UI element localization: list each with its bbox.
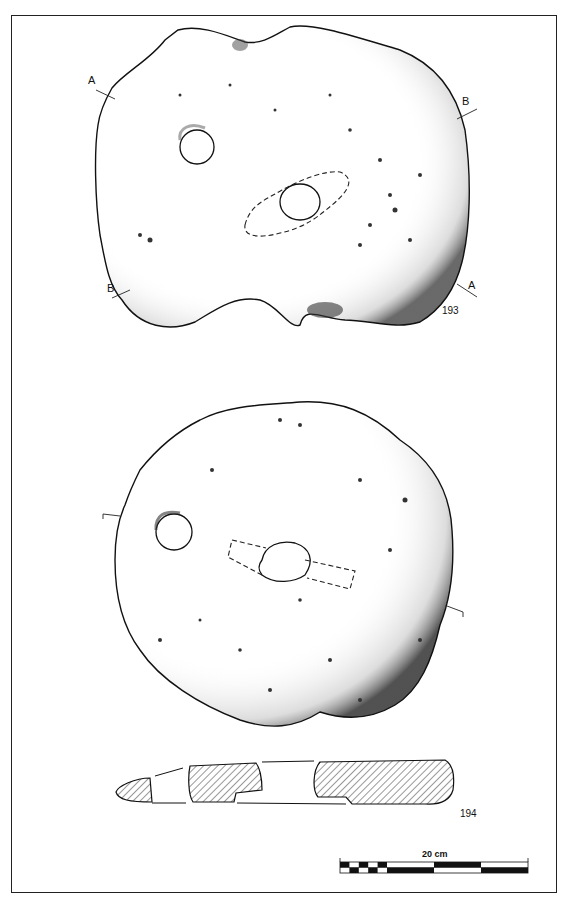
hole-central xyxy=(280,184,320,220)
hole-small xyxy=(180,130,214,164)
plate-drawing xyxy=(0,0,570,901)
section-marker-a-left: A xyxy=(88,75,95,86)
section-marker-a-right: A xyxy=(468,280,475,291)
anchor-stone-193 xyxy=(96,26,477,327)
scale-bar xyxy=(340,858,528,873)
catalogue-number-193: 193 xyxy=(442,305,459,316)
anchor-stone-194 xyxy=(103,402,463,726)
section-marker-b-left: B xyxy=(107,283,114,294)
hole-small xyxy=(156,514,192,550)
section-marker-b-right: B xyxy=(462,96,469,107)
scale-bar-label: 20 cm xyxy=(422,849,448,859)
section-194 xyxy=(116,760,454,804)
catalogue-number-194: 194 xyxy=(460,808,477,819)
